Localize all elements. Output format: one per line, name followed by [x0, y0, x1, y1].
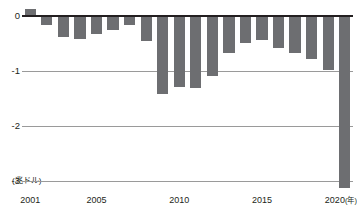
x-tick-text: 2015: [252, 195, 272, 205]
y-tick-label--1: -1: [12, 66, 20, 76]
bar-2013: [223, 16, 234, 53]
x-tick-label-2010: 2010: [169, 196, 189, 205]
bar-2006: [107, 16, 118, 30]
bar-2017: [289, 16, 300, 53]
bar-2008: [141, 16, 152, 41]
x-tick-text: 2020: [325, 195, 345, 205]
bar-2002: [41, 16, 52, 25]
x-tick-label-2020: 2020(年): [325, 196, 357, 205]
bar-series: [22, 0, 353, 188]
bar-2018: [306, 16, 317, 59]
bar-2007: [124, 16, 135, 25]
y-axis-labels: 0-1-2-3(兆ドル): [0, 0, 22, 188]
bar-2005: [91, 16, 102, 34]
x-tick-text: 2010: [169, 195, 189, 205]
bar-2010: [174, 16, 185, 87]
bar-2015: [256, 16, 267, 40]
bar-2014: [240, 16, 251, 43]
y-tick-label-0: 0: [15, 11, 20, 21]
x-axis-labels: 20012005201020152020(年): [22, 190, 353, 214]
y-tick-label--2: -2: [12, 121, 20, 131]
x-tick-label-2001: 2001: [20, 196, 40, 205]
bar-2003: [58, 16, 69, 37]
bar-2020: [339, 16, 350, 188]
bar-2016: [273, 16, 284, 48]
bar-2011: [190, 16, 201, 88]
x-tick-text: 2001: [20, 195, 40, 205]
zero-axis-line: [22, 15, 353, 17]
bar-2012: [207, 16, 218, 76]
x-tick-label-2015: 2015: [252, 196, 272, 205]
x-tick-text: 2005: [86, 195, 106, 205]
bar-2019: [323, 16, 334, 70]
bar-2004: [74, 16, 85, 39]
plot-area: [22, 0, 353, 188]
x-tick-label-2005: 2005: [86, 196, 106, 205]
bar-2009: [157, 16, 168, 94]
x-axis-unit-label: (年): [345, 196, 357, 205]
